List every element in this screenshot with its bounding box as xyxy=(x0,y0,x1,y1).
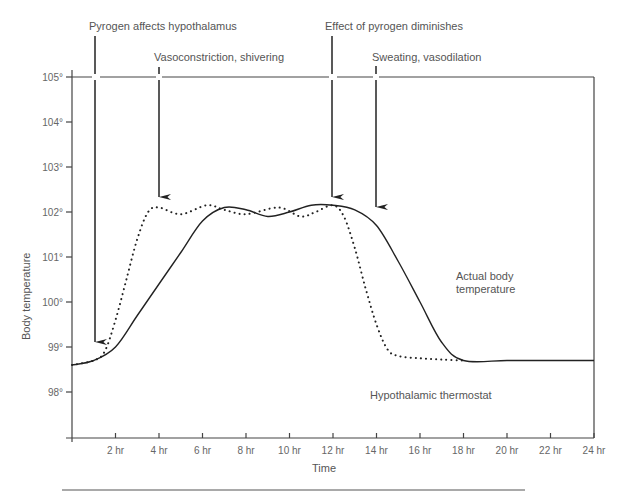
y-tick-label: 99° xyxy=(48,342,63,353)
plot-frame xyxy=(72,77,594,438)
x-tick-label: 16 hr xyxy=(409,445,432,456)
x-tick-label: 10 hr xyxy=(278,445,301,456)
x-tick-label: 12 hr xyxy=(322,445,345,456)
y-tick-label: 103° xyxy=(42,162,63,173)
x-tick-label: 8 hr xyxy=(237,445,255,456)
y-tick-label: 98° xyxy=(48,387,63,398)
x-tick-label: 2 hr xyxy=(107,445,125,456)
annotation-pyrogen-diminishes: Effect of pyrogen diminishes xyxy=(325,20,463,32)
y-tick-label: 100° xyxy=(42,297,63,308)
y-axis-title: Body temperature xyxy=(20,253,32,340)
x-axis-ticks: 2 hr4 hr6 hr8 hr10 hr12 hr14 hr16 hr18 h… xyxy=(107,433,606,456)
fever-chart: 98°99°100°101°102°103°104°105° 2 hr4 hr6… xyxy=(0,0,629,500)
x-tick-label: 20 hr xyxy=(496,445,519,456)
x-tick-label: 22 hr xyxy=(539,445,562,456)
hypothalamic-thermostat-line xyxy=(72,205,464,365)
x-tick-label: 18 hr xyxy=(452,445,475,456)
x-tick-label: 14 hr xyxy=(365,445,388,456)
y-tick-label: 101° xyxy=(42,252,63,263)
label-actual-body-temperature-2: temperature xyxy=(456,283,515,295)
annotation-vasoconstriction: Vasoconstriction, shivering xyxy=(154,51,284,63)
annotation-pyrogen-affects: Pyrogen affects hypothalamus xyxy=(89,20,237,32)
y-tick-label: 105° xyxy=(42,72,63,83)
x-tick-label: 24 hr xyxy=(583,445,606,456)
x-axis-title: Time xyxy=(312,462,336,474)
y-tick-label: 104° xyxy=(42,117,63,128)
annotation-arrows xyxy=(95,36,376,342)
y-tick-label: 102° xyxy=(42,207,63,218)
annotation-sweating: Sweating, vasodilation xyxy=(372,51,481,63)
label-hypothalamic-thermostat: Hypothalamic thermostat xyxy=(370,389,492,401)
y-axis-ticks: 98°99°100°101°102°103°104°105° xyxy=(42,72,72,398)
actual-body-temperature-line xyxy=(72,205,594,365)
x-tick-label: 6 hr xyxy=(194,445,212,456)
x-tick-label: 4 hr xyxy=(150,445,168,456)
label-actual-body-temperature-1: Actual body xyxy=(456,270,514,282)
